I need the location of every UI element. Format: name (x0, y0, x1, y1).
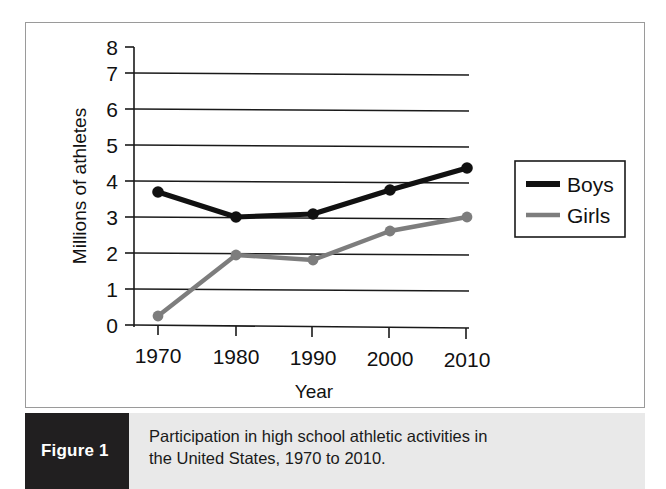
gridline-3 (134, 217, 469, 219)
y-tick-label-3: 3 (106, 206, 118, 229)
legend-label-girls: Girls (567, 204, 610, 227)
chart-panel: 8 7 6 5 4 3 2 1 0 1970 1980 1990 2000 20… (25, 22, 645, 408)
series-boys-point-1980 (230, 211, 242, 223)
y-tick-label-5: 5 (106, 134, 118, 157)
x-axis (134, 325, 469, 339)
x-tick-label-2000: 2000 (367, 347, 414, 370)
series-girls-point-2010 (462, 212, 473, 223)
y-tick-label-8: 8 (106, 36, 118, 59)
gridline-2 (134, 253, 469, 255)
legend: Boys Girls (515, 161, 625, 237)
y-axis-title: Millions of athletes (69, 108, 90, 264)
series-girls-line (158, 217, 467, 316)
figure-number-tag: Figure 1 (25, 413, 129, 489)
figure-container: 8 7 6 5 4 3 2 1 0 1970 1980 1990 2000 20… (0, 0, 666, 489)
x-tick-labels: 1970 1980 1990 2000 2010 (135, 344, 491, 371)
line-chart: 8 7 6 5 4 3 2 1 0 1970 1980 1990 2000 20… (26, 23, 643, 406)
x-tick-label-1970: 1970 (135, 344, 182, 367)
y-axis (125, 47, 134, 327)
caption-line-2: the United States, 1970 to 2010. (149, 448, 629, 470)
series-girls-point-2000 (385, 226, 396, 237)
y-tick-label-1: 1 (106, 278, 118, 301)
gridline-7 (134, 73, 469, 75)
series-boys-point-2000 (384, 184, 396, 196)
x-tick-label-1990: 1990 (290, 346, 337, 369)
x-axis-title: Year (295, 381, 334, 402)
gridline-1 (134, 289, 469, 291)
caption-line-1: Participation in high school athletic ac… (149, 426, 629, 448)
figure-caption-strip: Figure 1 Participation in high school at… (25, 413, 645, 489)
series-girls-point-1980 (231, 250, 242, 261)
series-boys (152, 162, 473, 223)
y-tick-label-6: 6 (106, 98, 118, 121)
y-tick-label-4: 4 (106, 170, 118, 193)
x-axis-line (134, 325, 469, 328)
x-tick-label-2010: 2010 (444, 348, 491, 371)
y-tick-label-0: 0 (106, 314, 118, 337)
series-boys-point-2010 (461, 162, 473, 174)
figure-caption-text: Participation in high school athletic ac… (129, 413, 645, 489)
series-boys-point-1990 (307, 208, 319, 220)
legend-label-boys: Boys (567, 173, 614, 196)
y-tick-label-2: 2 (106, 242, 118, 265)
y-tick-labels: 8 7 6 5 4 3 2 1 0 (106, 36, 118, 337)
x-tick-label-1980: 1980 (213, 345, 260, 368)
series-boys-point-1970 (152, 186, 164, 198)
series-girls-point-1990 (308, 255, 319, 266)
series-girls (153, 212, 473, 322)
gridline-6 (134, 109, 469, 111)
gridline-5 (134, 145, 469, 147)
series-girls-point-1970 (153, 311, 164, 322)
y-tick-label-7: 7 (106, 62, 118, 85)
